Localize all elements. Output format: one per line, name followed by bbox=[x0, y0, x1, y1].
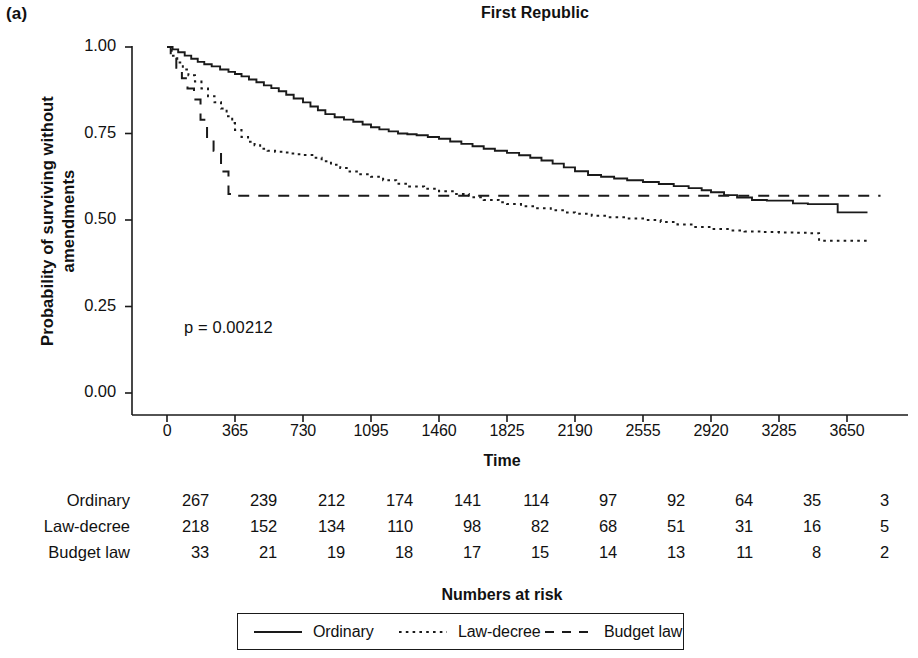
legend-label: Budget law bbox=[604, 623, 682, 641]
y-tick-label: 0.00 bbox=[58, 382, 116, 401]
risk-table-cell: 97 bbox=[561, 487, 617, 513]
legend-key-dotted-line-icon bbox=[397, 625, 449, 639]
risk-table-row: Ordinary267239212174141114979264353 bbox=[0, 487, 918, 513]
risk-table-row-label: Law-decree bbox=[0, 513, 130, 539]
risk-table-cell: 11 bbox=[697, 539, 753, 565]
risk-table-cell: 5 bbox=[833, 513, 889, 539]
risk-table-row: Budget law33211918171514131182 bbox=[0, 539, 918, 565]
legend-key-solid-line-icon bbox=[252, 625, 304, 639]
risk-table-cell: 14 bbox=[561, 539, 617, 565]
x-tick-label: 3650 bbox=[812, 422, 882, 440]
risk-table-cell: 3 bbox=[833, 487, 889, 513]
risk-table-cell: 152 bbox=[221, 513, 277, 539]
legend-label: Law-decree bbox=[458, 623, 541, 641]
risk-table-cell: 267 bbox=[153, 487, 209, 513]
risk-table-cell: 16 bbox=[765, 513, 821, 539]
legend-item-budget-law[interactable]: Budget law bbox=[543, 614, 682, 649]
legend-key-dashed-line-icon bbox=[543, 625, 595, 639]
x-tick-label: 2555 bbox=[608, 422, 678, 440]
risk-table-cell: 82 bbox=[493, 513, 549, 539]
y-tick-label: 0.25 bbox=[58, 296, 116, 315]
series-line-ordinary bbox=[167, 47, 867, 212]
risk-table-cell: 110 bbox=[357, 513, 413, 539]
x-tick-label: 2920 bbox=[676, 422, 746, 440]
numbers-at-risk-table: Ordinary267239212174141114979264353Law-d… bbox=[0, 487, 918, 565]
y-tick-label: 1.00 bbox=[58, 36, 116, 55]
risk-table-cell: 33 bbox=[153, 539, 209, 565]
risk-table-cell: 51 bbox=[629, 513, 685, 539]
risk-table-cell: 212 bbox=[289, 487, 345, 513]
x-tick-label: 1095 bbox=[336, 422, 406, 440]
risk-table-row-label: Budget law bbox=[0, 539, 130, 565]
risk-table-cell: 68 bbox=[561, 513, 617, 539]
risk-table-cell: 239 bbox=[221, 487, 277, 513]
risk-table-cell: 21 bbox=[221, 539, 277, 565]
x-tick-label: 2190 bbox=[540, 422, 610, 440]
legend-item-law-decree[interactable]: Law-decree bbox=[397, 614, 541, 649]
risk-table-cell: 134 bbox=[289, 513, 345, 539]
risk-table-cell: 64 bbox=[697, 487, 753, 513]
series-line-budget-law bbox=[167, 47, 881, 196]
x-tick-label: 730 bbox=[268, 422, 338, 440]
risk-table-cell: 18 bbox=[357, 539, 413, 565]
risk-table-cell: 98 bbox=[425, 513, 481, 539]
risk-table-cell: 19 bbox=[289, 539, 345, 565]
survival-chart-figure: (a) First Republic Probability of surviv… bbox=[0, 0, 918, 658]
risk-table-cell: 31 bbox=[697, 513, 753, 539]
risk-table-cell: 174 bbox=[357, 487, 413, 513]
legend-label: Ordinary bbox=[313, 623, 374, 641]
p-value-annotation: p = 0.00212 bbox=[184, 318, 273, 337]
risk-table-cell: 218 bbox=[153, 513, 209, 539]
risk-table-cell: 114 bbox=[493, 487, 549, 513]
x-axis-label: Time bbox=[132, 452, 872, 470]
risk-table-cell: 13 bbox=[629, 539, 685, 565]
legend-item-ordinary[interactable]: Ordinary bbox=[252, 614, 374, 649]
y-tick-label: 0.75 bbox=[58, 123, 116, 142]
risk-table-cell: 141 bbox=[425, 487, 481, 513]
risk-table-cell: 92 bbox=[629, 487, 685, 513]
plot-area bbox=[0, 0, 918, 470]
chart-legend: OrdinaryLaw-decreeBudget law bbox=[237, 613, 684, 650]
x-tick-label: 0 bbox=[132, 422, 202, 440]
x-tick-label: 1825 bbox=[472, 422, 542, 440]
risk-table-row: Law-decree2181521341109882685131165 bbox=[0, 513, 918, 539]
risk-table-row-label: Ordinary bbox=[0, 487, 130, 513]
x-tick-label: 365 bbox=[200, 422, 270, 440]
y-tick-label: 0.50 bbox=[58, 209, 116, 228]
x-tick-label: 3285 bbox=[744, 422, 814, 440]
x-tick-label: 1460 bbox=[404, 422, 474, 440]
risk-table-cell: 8 bbox=[765, 539, 821, 565]
series-line-law-decree bbox=[167, 47, 867, 241]
risk-table-caption: Numbers at risk bbox=[132, 586, 872, 604]
risk-table-cell: 35 bbox=[765, 487, 821, 513]
risk-table-cell: 17 bbox=[425, 539, 481, 565]
risk-table-cell: 2 bbox=[833, 539, 889, 565]
risk-table-cell: 15 bbox=[493, 539, 549, 565]
